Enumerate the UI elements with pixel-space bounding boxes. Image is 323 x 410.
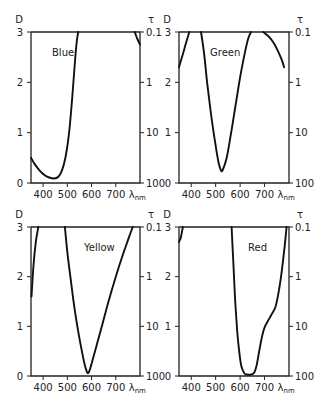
y-axis-label-right: τ xyxy=(297,14,303,25)
x-tick-label: 500 xyxy=(206,189,225,200)
x-tick-label: 400 xyxy=(182,382,201,393)
y-axis-label-right: τ xyxy=(148,14,154,25)
x-tick-label: 700 xyxy=(106,189,125,200)
y-tick-label-left: 3 xyxy=(17,27,23,38)
chart-panel-blue: 01231001010.1400500600700λnmDτBlue xyxy=(15,14,165,202)
chart-panel-yellow: 01231001010.1400500600700λnmDτYellow xyxy=(15,209,165,395)
density-curve xyxy=(32,227,39,297)
panel-title: Green xyxy=(210,47,240,58)
y-tick-label-left: 2 xyxy=(165,271,171,282)
y-tick-label-right: 1 xyxy=(146,77,152,88)
density-curve xyxy=(263,32,284,67)
x-tick-label: 500 xyxy=(58,189,77,200)
x-tick-label: 400 xyxy=(34,382,53,393)
y-tick-label-left: 3 xyxy=(165,222,171,233)
x-tick-label: 700 xyxy=(255,189,274,200)
x-tick-label: 500 xyxy=(206,382,225,393)
y-axis-label-left: D xyxy=(163,209,171,220)
y-tick-label-left: 2 xyxy=(165,77,171,88)
x-tick-label: 400 xyxy=(182,189,201,200)
y-tick-label-right: 0.1 xyxy=(146,222,162,233)
x-tick-label: 500 xyxy=(58,382,77,393)
chart-panel-red: 01231001010.1400500600700λnmDτRed xyxy=(163,209,314,395)
x-tick-label: 600 xyxy=(82,189,101,200)
panel-title: Red xyxy=(248,242,267,253)
x-axis-label: λnm xyxy=(129,189,146,202)
panel-title: Yellow xyxy=(83,242,115,253)
y-tick-label-right: 10 xyxy=(146,127,159,138)
x-tick-label: 600 xyxy=(82,382,101,393)
axes-frame xyxy=(31,32,140,183)
y-tick-label-left: 0 xyxy=(17,371,23,382)
density-curve xyxy=(135,32,140,45)
y-tick-label-right: 1 xyxy=(146,271,152,282)
y-tick-label-left: 0 xyxy=(165,178,171,189)
y-tick-label-left: 1 xyxy=(165,127,171,138)
y-tick-label-right: 10 xyxy=(295,321,308,332)
y-tick-label-right: 10 xyxy=(146,321,159,332)
x-axis-label: λnm xyxy=(129,382,146,395)
y-axis-label-right: τ xyxy=(148,209,154,220)
y-axis-label-left: D xyxy=(15,14,23,25)
x-tick-label: 700 xyxy=(106,382,125,393)
y-tick-label-right: 1 xyxy=(295,77,301,88)
axes-frame xyxy=(179,227,289,376)
x-tick-label: 600 xyxy=(231,189,250,200)
y-tick-label-left: 3 xyxy=(165,27,171,38)
y-tick-label-right: 0.1 xyxy=(146,27,162,38)
x-axis-label: λnm xyxy=(278,382,295,395)
y-tick-label-right: 0.1 xyxy=(295,222,311,233)
y-tick-label-left: 0 xyxy=(165,371,171,382)
y-axis-label-right: τ xyxy=(297,209,303,220)
y-tick-label-right: 100 xyxy=(146,178,165,189)
y-tick-label-left: 0 xyxy=(17,178,23,189)
density-curve xyxy=(179,32,189,67)
y-axis-label-left: D xyxy=(15,209,23,220)
y-tick-label-left: 1 xyxy=(165,321,171,332)
y-tick-label-left: 1 xyxy=(17,127,23,138)
y-tick-label-left: 1 xyxy=(17,321,23,332)
y-tick-label-right: 0.1 xyxy=(295,27,311,38)
y-tick-label-left: 2 xyxy=(17,271,23,282)
x-tick-label: 600 xyxy=(231,382,250,393)
panel-title: Blue xyxy=(52,47,74,58)
y-tick-label-right: 100 xyxy=(295,371,314,382)
filter-density-figure: 01231001010.1400500600700λnmDτBlue012310… xyxy=(0,0,323,410)
x-tick-label: 400 xyxy=(34,189,53,200)
x-tick-label: 700 xyxy=(255,382,274,393)
chart-panel-green: 01231001010.1400500600700λnmDτGreen xyxy=(163,14,314,202)
y-tick-label-right: 100 xyxy=(295,178,314,189)
y-axis-label-left: D xyxy=(163,14,171,25)
y-tick-label-right: 100 xyxy=(146,371,165,382)
y-tick-label-left: 2 xyxy=(17,77,23,88)
y-tick-label-left: 3 xyxy=(17,222,23,233)
y-tick-label-right: 10 xyxy=(295,127,308,138)
y-tick-label-right: 1 xyxy=(295,271,301,282)
x-axis-label: λnm xyxy=(278,189,295,202)
